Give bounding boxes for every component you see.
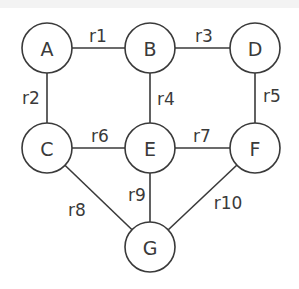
edge-label: r5 [263, 86, 281, 106]
edge-label: r7 [193, 126, 211, 146]
node-G: G [125, 222, 175, 272]
node-label: E [144, 138, 156, 160]
edge-label: r4 [157, 89, 175, 109]
node-D: D [230, 23, 280, 73]
node-B: B [125, 23, 175, 73]
node-label: F [250, 138, 261, 160]
edge-label: r6 [91, 126, 109, 146]
edge-label: r2 [22, 88, 40, 108]
edge-label: r9 [128, 185, 146, 205]
node-F: F [230, 123, 280, 173]
edge-label: r1 [89, 26, 107, 46]
edge-label: r10 [214, 193, 243, 213]
node-label: A [41, 38, 54, 60]
node-E: E [125, 123, 175, 173]
edge-label: r3 [195, 26, 213, 46]
node-label: D [248, 38, 263, 60]
node-A: A [22, 23, 72, 73]
edge-label: r8 [68, 200, 86, 220]
node-C: C [22, 123, 72, 173]
nodes-layer: ABDCEFG [22, 23, 280, 272]
node-label: B [143, 38, 156, 60]
node-label: C [40, 138, 53, 160]
node-label: G [143, 237, 158, 259]
graph-diagram: ABDCEFG r1r2r3r4r5r6r7r8r9r10 [0, 0, 299, 289]
